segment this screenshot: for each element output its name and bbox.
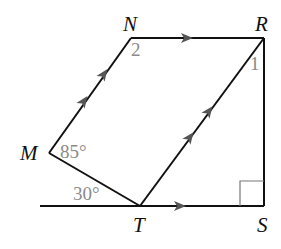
geometry-diagram: N R M T S 85° 30° 2 1 bbox=[0, 0, 281, 249]
angle-2-label: 2 bbox=[131, 39, 141, 60]
label-r: R bbox=[254, 12, 268, 36]
label-t: T bbox=[133, 213, 146, 237]
angle-1-label: 1 bbox=[250, 53, 260, 74]
label-s: S bbox=[257, 213, 268, 237]
label-n: N bbox=[122, 12, 138, 36]
segment-mn bbox=[49, 38, 131, 153]
label-m: M bbox=[19, 141, 39, 165]
angle-t-label: 30° bbox=[73, 183, 100, 204]
right-angle-mark bbox=[240, 181, 264, 206]
angle-m-label: 85° bbox=[60, 141, 87, 162]
